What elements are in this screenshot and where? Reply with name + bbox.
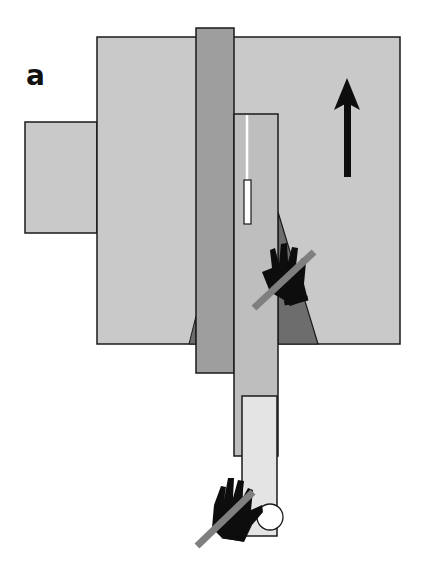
blade-strip	[196, 28, 234, 373]
table-saw-diagram	[0, 0, 422, 564]
panel-label: a	[26, 62, 45, 90]
side-extension	[25, 122, 97, 233]
kerf-slot	[244, 180, 251, 224]
